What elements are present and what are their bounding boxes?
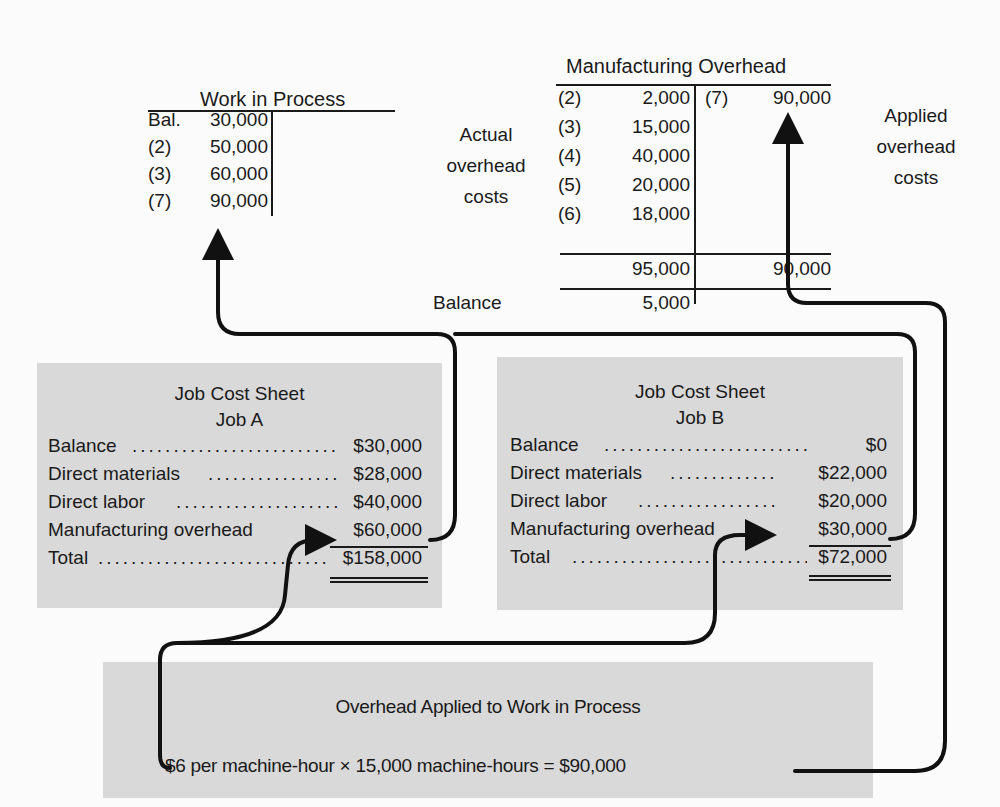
job-b-row-amount: $22,000: [818, 462, 887, 484]
wip-ref: (7): [148, 188, 171, 214]
job-a-row-total: Total ..................................…: [48, 547, 422, 573]
moh-balance-label: Balance: [433, 290, 502, 316]
job-b-row-total: Total ..................................…: [510, 546, 887, 572]
moh-debit-ref: (3): [558, 114, 581, 140]
job-a-row: Manufacturing overhead $60,000: [48, 519, 422, 545]
leader-dots: ........................................…: [670, 462, 775, 484]
moh-credit-ref: (7): [705, 85, 728, 111]
job-a-row-amount: $30,000: [353, 435, 422, 457]
job-a-row: Direct labor ...........................…: [48, 491, 422, 517]
moh-debit-ref: (4): [558, 143, 581, 169]
moh-debit-amount: 20,000: [592, 172, 690, 198]
job-b-title: Job Cost Sheet: [497, 381, 903, 403]
leader-dots: ........................................…: [638, 490, 775, 512]
moh-balance-amount: 5,000: [592, 290, 690, 316]
job-b-row-amount: $20,000: [818, 490, 887, 512]
moh-credit-total: 90,000: [740, 256, 831, 282]
job-a-double-rule: [330, 577, 428, 579]
moh-debit-ref: (6): [558, 201, 581, 227]
job-a-row-amount: $28,000: [353, 463, 422, 485]
moh-center-rule: [694, 84, 696, 304]
job-b-row: Direct materials .......................…: [510, 462, 887, 488]
job-cost-sheet-b: Job Cost Sheet Job B Balance ...........…: [497, 357, 903, 610]
leader-dots: ........................................…: [572, 546, 807, 568]
moh-debit-total: 95,000: [592, 256, 690, 282]
wip-amount: 50,000: [185, 134, 268, 160]
job-b-row-label: Direct materials: [510, 462, 642, 484]
job-b-row-label: Total: [510, 546, 550, 568]
actual-overhead-label-line: overhead: [421, 153, 551, 179]
job-b-row-label: Manufacturing overhead: [510, 518, 715, 540]
leader-dots: ........................................…: [604, 434, 809, 456]
applied-overhead-label-line: Applied: [866, 103, 966, 129]
job-a-row-amount: $40,000: [353, 491, 422, 513]
wip-amount: 90,000: [185, 188, 268, 214]
job-a-subtitle: Job A: [37, 409, 442, 431]
actual-overhead-label-line: costs: [441, 184, 531, 210]
job-b-row-label: Direct labor: [510, 490, 607, 512]
job-a-row: Balance ................................…: [48, 435, 422, 461]
moh-debit-amount: 2,000: [592, 85, 690, 111]
job-b-row-amount: $30,000: [818, 518, 887, 540]
moh-debit-ref: (5): [558, 172, 581, 198]
job-a-row-label: Total: [48, 547, 88, 569]
wip-amount: 30,000: [185, 107, 268, 133]
job-a-total-amount: $158,000: [343, 547, 422, 569]
job-a-row-label: Manufacturing overhead: [48, 519, 253, 541]
job-b-row: Balance ................................…: [510, 434, 887, 460]
job-cost-sheet-a: Job Cost Sheet Job A Balance ...........…: [37, 363, 442, 608]
job-a-title: Job Cost Sheet: [37, 383, 442, 405]
job-a-row-label: Direct labor: [48, 491, 145, 513]
moh-total-rule: [560, 253, 831, 255]
job-a-row-label: Direct materials: [48, 463, 180, 485]
leader-dots: ........................................…: [132, 435, 339, 457]
job-b-row-amount: $0: [866, 434, 887, 456]
job-a-row-amount: $60,000: [353, 519, 422, 541]
job-b-row-label: Balance: [510, 434, 579, 456]
job-b-subtitle: Job B: [497, 407, 903, 429]
job-b-double-rule: [809, 575, 891, 577]
wip-amount: 60,000: [185, 161, 268, 187]
wip-ref: (2): [148, 134, 171, 160]
leader-dots: ........................................…: [176, 491, 339, 513]
job-a-row: Direct materials .......................…: [48, 463, 422, 489]
job-b-total-amount: $72,000: [818, 546, 887, 568]
moh-debit-amount: 15,000: [592, 114, 690, 140]
wip-center-rule: [271, 110, 273, 216]
moh-debit-amount: 40,000: [592, 143, 690, 169]
moh-debit-ref: (2): [558, 85, 581, 111]
moh-debit-amount: 18,000: [592, 201, 690, 227]
leader-dots: ........................................…: [208, 463, 339, 485]
job-b-row: Manufacturing overhead $30,000: [510, 518, 887, 544]
applied-overhead-label-line: overhead: [856, 134, 976, 160]
job-b-double-rule: [809, 579, 891, 581]
overhead-applied-title: Overhead Applied to Work in Process: [103, 696, 873, 718]
wip-ref: (3): [148, 161, 171, 187]
moh-credit-amount: 90,000: [740, 85, 831, 111]
leader-dots: ........................................…: [98, 547, 330, 569]
job-b-row: Direct labor ...........................…: [510, 490, 887, 516]
job-a-row-label: Balance: [48, 435, 117, 457]
wip-ref: Bal.: [148, 107, 181, 133]
moh-title: Manufacturing Overhead: [566, 55, 786, 78]
job-a-double-rule: [330, 581, 428, 583]
overhead-applied-formula: $6 per machine-hour × 15,000 machine-hou…: [165, 755, 626, 777]
actual-overhead-label-line: Actual: [441, 122, 531, 148]
applied-overhead-label-line: costs: [866, 165, 966, 191]
overhead-applied-box: Overhead Applied to Work in Process $6 p…: [103, 662, 873, 798]
